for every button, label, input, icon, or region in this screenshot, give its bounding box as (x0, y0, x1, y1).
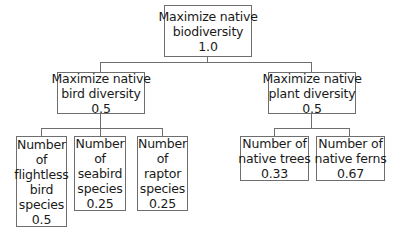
node-label: Maximize native (262, 71, 361, 86)
node-label: raptor (144, 166, 181, 181)
node-weight: 0.5 (91, 101, 110, 116)
node-label: Number of (242, 136, 306, 151)
node-weight: 0.25 (86, 196, 113, 211)
node-label: bird diversity (61, 86, 140, 101)
node-weight: 0.5 (302, 101, 321, 116)
node-seabird-species: Number of seabird species 0.25 (74, 136, 126, 211)
node-label: Number (138, 136, 187, 151)
node-label: bird (30, 182, 53, 197)
node-label: Maximize native (51, 71, 150, 86)
node-flightless-bird-species: Number of flightless bird species 0.5 (16, 136, 67, 227)
connector-bird-bar (41, 128, 163, 129)
connector-to-seabird (100, 128, 101, 136)
node-label: species (77, 181, 122, 196)
node-label: species (140, 181, 185, 196)
node-bird-diversity: Maximize native bird diversity 0.5 (57, 72, 145, 114)
node-label: plant diversity (269, 86, 356, 101)
node-raptor-species: Number of raptor species 0.25 (137, 136, 188, 211)
node-label: seabird (78, 166, 123, 181)
connector-to-trees (274, 128, 275, 136)
node-label: native trees (238, 151, 310, 166)
node-weight: 0.25 (149, 196, 176, 211)
node-weight: 0.33 (261, 166, 288, 181)
node-label: species (19, 197, 64, 212)
node-label: Number of (318, 136, 382, 151)
connector-to-ferns (349, 128, 350, 136)
node-label: of (94, 151, 106, 166)
node-label: of (157, 151, 169, 166)
node-plant-diversity: Maximize native plant diversity 0.5 (268, 72, 356, 114)
connector-level2-bar (100, 62, 312, 63)
node-native-ferns: Number of native ferns 0.67 (316, 136, 385, 181)
node-label: flightless (14, 167, 68, 182)
node-label: Maximize native (158, 9, 257, 24)
node-label: biodiversity (173, 24, 244, 39)
node-label: Number (76, 136, 125, 151)
node-label: of (36, 152, 48, 167)
node-label: native ferns (314, 151, 386, 166)
node-weight: 1.0 (198, 39, 217, 54)
node-weight: 0.67 (337, 166, 364, 181)
node-native-trees: Number of native trees 0.33 (240, 136, 309, 181)
node-label: Number (17, 137, 66, 152)
connector-plant-bar (274, 128, 350, 129)
node-root-biodiversity: Maximize native biodiversity 1.0 (164, 5, 252, 57)
node-weight: 0.5 (32, 212, 51, 227)
connector-to-flightless (41, 128, 42, 136)
connector-to-raptor (162, 128, 163, 136)
